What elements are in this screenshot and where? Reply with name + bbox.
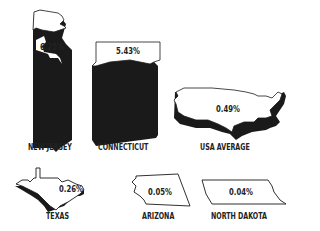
value-connecticut: 5.43%: [116, 46, 140, 56]
usa-shape: [174, 88, 286, 140]
value-texas: 0.26%: [59, 184, 83, 194]
connecticut-shape: [92, 42, 160, 146]
value-north-dakota: 0.04%: [229, 187, 253, 197]
value-usa-average: 0.49%: [216, 104, 240, 114]
label-new-jersey: NEW JERSEY: [28, 143, 72, 152]
label-north-dakota: NORTH DAKOTA: [211, 212, 267, 221]
label-texas: TEXAS: [46, 212, 69, 221]
new-jersey-shape: [33, 10, 72, 152]
label-usa-average: USA AVERAGE: [200, 143, 250, 152]
label-connecticut: CONNECTICUT: [98, 143, 148, 152]
label-arizona: ARIZONA: [142, 212, 174, 221]
value-new-jersey: 6.25%: [40, 42, 64, 52]
value-arizona: 0.05%: [148, 187, 172, 197]
